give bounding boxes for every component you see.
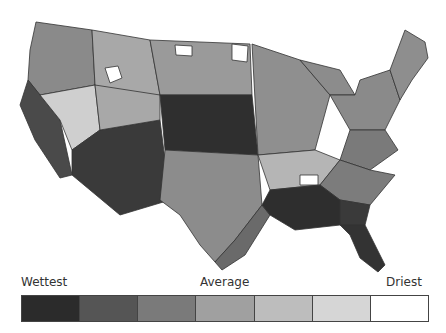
region-minnesota-dry xyxy=(232,44,248,62)
legend-swatch xyxy=(80,296,138,321)
region-north-dakota-dry xyxy=(175,45,192,56)
legend-swatch xyxy=(138,296,196,321)
legend-swatch xyxy=(196,296,254,321)
legend-swatch xyxy=(22,296,80,321)
region-pacific-northwest xyxy=(28,22,95,95)
legend-label-average: Average xyxy=(200,275,249,289)
us-precipitation-map xyxy=(0,0,446,290)
region-midwest xyxy=(252,44,330,155)
region-tennessee-dry xyxy=(300,175,318,185)
legend-swatch xyxy=(371,296,428,321)
legend-color-scale xyxy=(21,295,429,322)
region-florida xyxy=(340,225,385,272)
legend-label-driest: Driest xyxy=(386,275,422,289)
legend-swatch xyxy=(255,296,313,321)
region-central-plains xyxy=(160,95,258,155)
legend-swatch xyxy=(313,296,371,321)
region-gulf-coast xyxy=(262,185,340,230)
legend-label-wettest: Wettest xyxy=(21,275,67,289)
